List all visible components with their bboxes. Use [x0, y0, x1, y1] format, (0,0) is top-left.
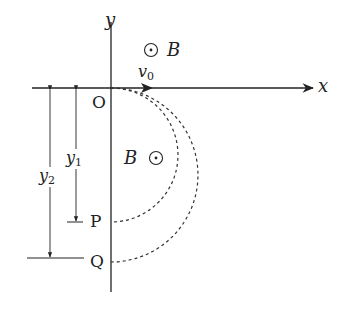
x-axis-label: x [318, 77, 328, 95]
trajectory-outer [111, 88, 198, 262]
origin-label: O [92, 94, 106, 111]
y2-subscript: 2 [48, 174, 55, 187]
field-label-lower: B [124, 149, 137, 167]
point-q-label: Q [90, 253, 104, 270]
y1-subscript: 1 [75, 156, 82, 169]
velocity-symbol: v [138, 62, 147, 81]
field-label-upper: B [167, 41, 180, 59]
y2-label: y2 [39, 167, 55, 187]
y2-symbol: y [39, 166, 48, 185]
y1-label: y1 [66, 149, 82, 169]
y-axis-label: y [105, 11, 115, 29]
field-out-of-page-icon-lower [150, 152, 163, 165]
velocity-label: v0 [138, 64, 154, 82]
diagram-canvas: y x O B B v0 y1 y2 P Q [0, 0, 348, 310]
point-p-label: P [90, 213, 101, 230]
y1-symbol: y [66, 148, 75, 167]
trajectory-inner [111, 88, 178, 222]
field-out-of-page-icon-upper [145, 44, 158, 57]
velocity-subscript: 0 [147, 70, 154, 83]
